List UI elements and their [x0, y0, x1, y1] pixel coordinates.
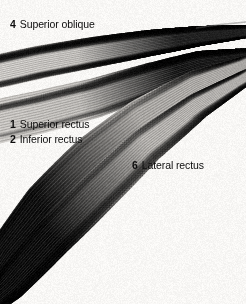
label-text: Superior oblique: [20, 18, 95, 30]
muscle-photograph: [0, 0, 246, 304]
label-lateral-rectus: 6Lateral rectus: [132, 159, 204, 172]
label-text: Lateral rectus: [142, 159, 204, 171]
label-superior-oblique: 4Superior oblique: [10, 18, 95, 31]
label-number: 1: [10, 118, 16, 130]
label-number: 4: [10, 18, 16, 30]
label-number: 6: [132, 159, 138, 171]
label-text: Superior rectus: [20, 118, 90, 130]
label-number: 2: [10, 133, 16, 145]
label-superior-rectus: 1Superior rectus: [10, 118, 89, 131]
anatomy-figure: 4Superior oblique 1Superior rectus 2Infe…: [0, 0, 246, 304]
label-inferior-rectus: 2Inferior rectus: [10, 133, 84, 146]
label-text: Inferior rectus: [20, 133, 83, 145]
